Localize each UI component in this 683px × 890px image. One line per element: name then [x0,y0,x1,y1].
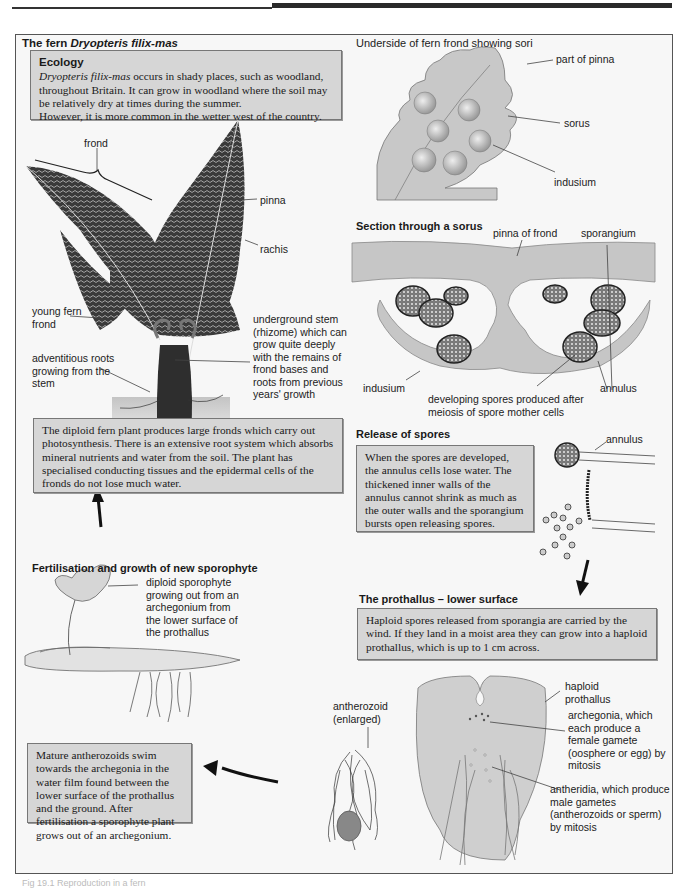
label-indusium-section: indusium [363,382,405,395]
label-indusium-underside: indusium [554,176,596,189]
label-young-fern-frond: young fern frond [32,305,107,330]
label-sorus: sorus [564,117,590,130]
label-rachis: rachis [260,243,288,256]
label-rhizome: underground stem (rhizome) which can gro… [253,313,348,401]
label-part-of-pinna: part of pinna [556,53,614,66]
label-pinna-of-frond: pinna of frond [493,227,557,240]
prothallus-title: The prothallus – lower surface [359,593,518,605]
label-sporangium: sporangium [581,227,636,240]
section-title: Section through a sorus [356,220,483,232]
label-frond: frond [84,137,108,150]
label-antherozoid: antherozoid (enlarged) [333,700,403,725]
figure-caption: Fig 19.1 Reproduction in a fern [22,878,146,888]
antherozoid-box: Mature antherozoids swim towards the arc… [27,743,192,823]
label-developing-spores: developing spores produced after meiosis… [428,393,603,418]
fertilisation-title: Fertilisation and growth of new sporophy… [32,562,258,574]
release-box: When the spores are developed, the annul… [356,445,534,532]
label-diploid-sporophyte: diploid sporophyte growing out from an a… [146,576,246,639]
label-annulus-section: annulus [600,382,637,395]
label-antheridia: antheridia, which produce male gametes (… [550,783,675,833]
release-title: Release of spores [356,428,450,440]
label-archegonia: archegonia, which each produce a female … [568,709,668,772]
label-annulus-release: annulus [606,433,643,446]
diploid-plant-box: The diploid fern plant produces large fr… [33,418,343,493]
label-adventitious-roots: adventitious roots growing from the stem [32,352,117,390]
underside-title: Underside of fern frond showing sori [356,37,533,50]
label-pinna: pinna [260,194,286,207]
prothallus-box: Haploid spores released from sporangia a… [357,608,657,660]
label-haploid-prothallus: haploid prothallus [565,680,625,705]
